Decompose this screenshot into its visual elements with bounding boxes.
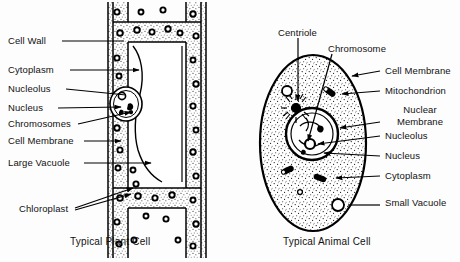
label-animal-nucleolus: Nucleolus xyxy=(385,130,428,141)
label-animal-nucleus: Nucleus xyxy=(385,150,420,161)
label-animal-small-vacuole: Small Vacuole xyxy=(385,197,455,209)
animal-nucleolus xyxy=(305,139,315,149)
label-plant-cell-membrane: Cell Membrane xyxy=(8,135,74,146)
label-animal-mitochondrion: Mitochondrion xyxy=(385,85,446,96)
animal-nucleus xyxy=(286,108,338,160)
label-animal-cell-membrane: Cell Membrane xyxy=(385,65,451,76)
label-plant-cytoplasm: Cytoplasm xyxy=(8,64,54,75)
label-plant-nucleolus: Nucleolus xyxy=(8,83,51,94)
label-animal-cytoplasm: Cytoplasm xyxy=(385,170,431,181)
label-animal-chromosome: Chromosome xyxy=(328,43,386,54)
animal-cell-drawing xyxy=(260,38,380,231)
label-plant-chloroplast: Chloroplast xyxy=(19,203,68,214)
caption-plant-cell: Typical Plant Cell xyxy=(70,236,150,247)
caption-animal-cell: Typical Animal Cell xyxy=(283,236,371,247)
plant-nucleolus xyxy=(118,92,125,99)
plant-cell-drawing xyxy=(58,2,206,258)
label-plant-nucleus: Nucleus xyxy=(8,102,43,113)
plant-large-vacuole-fill xyxy=(133,48,184,180)
label-plant-cell-wall: Cell Wall xyxy=(8,35,46,46)
label-animal-centriole: Centriole xyxy=(278,27,317,38)
label-animal-nuclear-membrane: Nuclear Membrane xyxy=(385,104,455,127)
cell-diagram-figure: Cell Wall Cytoplasm Nucleolus Nucleus Ch… xyxy=(0,0,460,262)
label-plant-large-vacuole: Large Vacuole xyxy=(8,157,70,168)
label-plant-chromosomes: Chromosomes xyxy=(8,118,71,129)
